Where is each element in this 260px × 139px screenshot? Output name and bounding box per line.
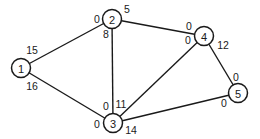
edge-label: 0 (185, 34, 191, 46)
node-1: 1 (12, 59, 31, 78)
node-label: 2 (109, 14, 115, 26)
node-label: 4 (201, 31, 207, 43)
node-3: 3 (104, 114, 123, 133)
node-label: 5 (235, 88, 241, 100)
edge-label: 5 (124, 3, 130, 15)
edge-label: 15 (26, 44, 38, 56)
edge-label: 8 (103, 28, 109, 40)
edge-label: 0 (94, 13, 100, 25)
node-label: 1 (18, 63, 24, 75)
nodes-layer: 12345 (12, 10, 248, 133)
network-diagram: 12345 1516058001200011014 (0, 0, 260, 139)
edge-label: 0 (103, 100, 109, 112)
node-label: 3 (110, 118, 116, 130)
edge-label: 14 (125, 124, 137, 136)
edge-label: 12 (217, 39, 229, 51)
edge-3-5 (113, 93, 238, 123)
edge-2-3 (112, 19, 113, 123)
edge-label: 0 (233, 71, 239, 83)
node-4: 4 (195, 27, 214, 46)
edge-label: 0 (221, 97, 227, 109)
node-2: 2 (103, 10, 122, 29)
node-5: 5 (229, 84, 248, 103)
edge-label: 11 (116, 98, 127, 110)
edge-1-3 (21, 68, 113, 123)
edge-label: 0 (186, 20, 192, 32)
edge-label: 0 (94, 118, 100, 130)
edge-3-4 (113, 36, 204, 123)
edge-label: 16 (26, 80, 38, 92)
